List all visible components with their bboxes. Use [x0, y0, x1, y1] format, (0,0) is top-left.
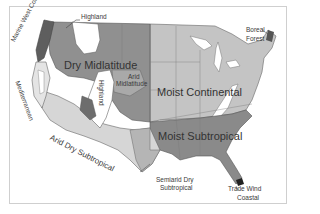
label-moist-subtropical: Moist Subtropical	[158, 131, 242, 142]
label-highland-north: Highland	[81, 14, 107, 21]
label-moist-continental: Moist Continental	[157, 87, 242, 98]
label-boreal-forest-2: Forest	[246, 36, 264, 43]
label-trade-wind-1: Trade Wind	[228, 186, 261, 193]
region-moist-subtropical	[150, 110, 252, 184]
label-semiarid-2: Subtropical	[160, 185, 193, 192]
label-dry-midlatitude: Dry Midlatitude	[64, 60, 137, 71]
label-trade-wind-2: Coastal	[237, 195, 259, 202]
label-arid-midlatitude-2: Midlatitude	[116, 81, 147, 88]
label-highland-central: Highland	[98, 80, 105, 106]
label-semiarid-1: Semiarid Dry	[156, 177, 194, 184]
label-boreal-forest-1: Boreal	[246, 27, 265, 34]
